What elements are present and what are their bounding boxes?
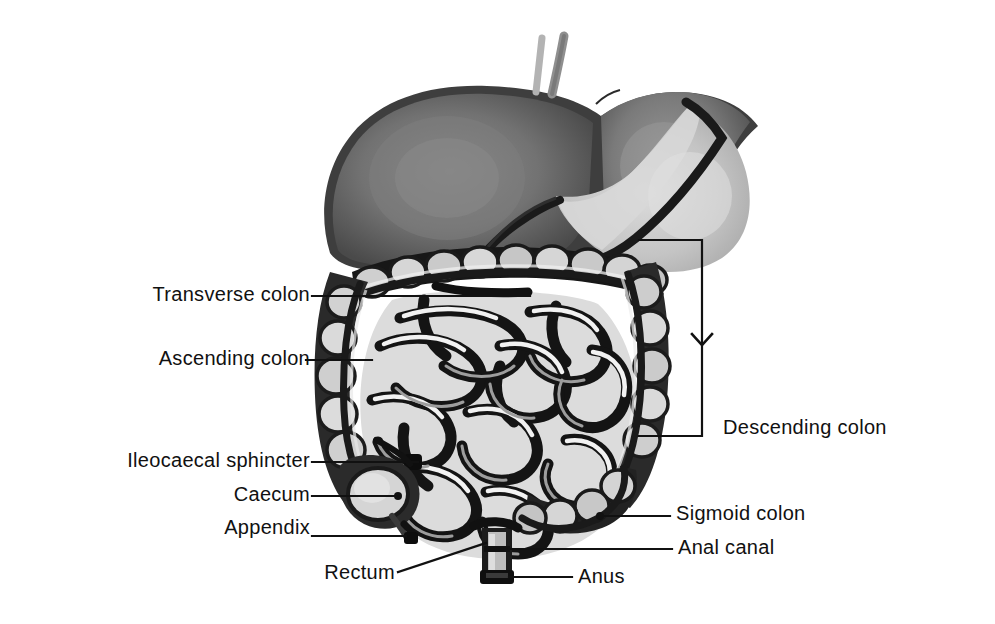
label-anus: Anus (578, 566, 778, 586)
label-descending-colon: Descending colon (723, 417, 983, 437)
label-appendix: Appendix (20, 517, 310, 537)
label-rectum: Rectum (230, 562, 395, 582)
label-sigmoid-colon: Sigmoid colon (676, 503, 936, 523)
label-ileocaecal-sphincter: Ileocaecal sphincter (20, 450, 310, 470)
label-ascending-colon: Ascending colon (20, 348, 310, 368)
diagram-page: Transverse colon Ascending colon Ileocae… (0, 0, 995, 624)
label-transverse-colon: Transverse colon (20, 284, 310, 304)
label-anal-canal: Anal canal (678, 537, 938, 557)
label-caecum: Caecum (20, 484, 310, 504)
esophagus-vessels (536, 36, 564, 94)
